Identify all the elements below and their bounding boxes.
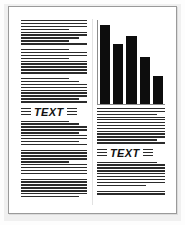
text-rule bbox=[21, 69, 87, 70]
text-rule bbox=[21, 167, 87, 168]
right-headline-row: TEXT bbox=[97, 146, 165, 159]
text-rule bbox=[21, 52, 87, 53]
text-rule bbox=[21, 141, 79, 142]
text-rule bbox=[97, 170, 165, 171]
text-rule bbox=[97, 162, 157, 163]
text-rule bbox=[21, 37, 79, 38]
left-headline-rule-right bbox=[67, 108, 77, 115]
text-rule bbox=[97, 114, 157, 115]
text-rule bbox=[21, 190, 87, 191]
text-rule bbox=[97, 117, 165, 118]
text-rule bbox=[21, 72, 87, 73]
text-rule bbox=[21, 173, 87, 174]
text-rule bbox=[21, 144, 87, 145]
text-rule bbox=[97, 176, 165, 177]
text-rule bbox=[21, 170, 87, 171]
left-headline-rule-left bbox=[21, 108, 31, 115]
text-rule bbox=[21, 29, 69, 30]
right-lines-below bbox=[97, 162, 165, 195]
text-rule bbox=[21, 55, 87, 56]
text-rule bbox=[21, 184, 87, 185]
text-rule bbox=[21, 26, 87, 27]
chart-bars bbox=[100, 21, 163, 104]
text-rule bbox=[21, 84, 87, 85]
left-headline-label: TEXT bbox=[34, 106, 64, 118]
text-rule bbox=[21, 158, 87, 159]
text-rule bbox=[21, 87, 87, 88]
text-rule bbox=[21, 187, 87, 188]
text-rule bbox=[21, 181, 87, 182]
text-rule bbox=[97, 185, 146, 186]
text-rule bbox=[21, 95, 87, 96]
text-rule bbox=[21, 138, 87, 139]
text-rule bbox=[21, 81, 79, 82]
right-headline-rule-right bbox=[143, 149, 153, 156]
text-rule bbox=[21, 152, 87, 153]
text-rule bbox=[97, 119, 165, 120]
text-rule bbox=[97, 164, 165, 165]
text-rule bbox=[21, 40, 69, 41]
text-rule bbox=[97, 108, 165, 109]
page-content: TEXT TEXT bbox=[9, 7, 176, 213]
text-rule bbox=[97, 179, 165, 180]
text-rule bbox=[21, 121, 69, 122]
left-lines-below bbox=[21, 121, 87, 198]
text-rule bbox=[97, 133, 165, 134]
text-rule bbox=[97, 193, 165, 194]
text-rule bbox=[21, 161, 69, 162]
text-rule bbox=[97, 167, 165, 168]
left-lines-above bbox=[21, 20, 87, 103]
chart-x-axis bbox=[97, 104, 165, 105]
document-thumbnail: TEXT TEXT bbox=[0, 0, 185, 225]
text-rule bbox=[97, 191, 165, 192]
text-rule bbox=[97, 111, 165, 112]
right-text-column: TEXT bbox=[97, 119, 165, 196]
left-text-column: TEXT bbox=[21, 20, 87, 199]
text-rule bbox=[21, 196, 79, 197]
text-rule bbox=[21, 63, 87, 64]
text-rule bbox=[21, 132, 79, 133]
text-rule bbox=[21, 49, 69, 50]
text-rule bbox=[21, 164, 87, 165]
chart-bar bbox=[153, 76, 163, 104]
right-lines-above bbox=[97, 119, 165, 144]
text-rule bbox=[21, 61, 87, 62]
right-headline-rule-left bbox=[97, 149, 107, 156]
bar-chart bbox=[97, 20, 165, 105]
text-rule bbox=[21, 123, 79, 124]
text-rule bbox=[21, 126, 87, 127]
right-strip-lines bbox=[97, 108, 165, 120]
text-rule bbox=[97, 173, 165, 174]
text-rule bbox=[21, 129, 87, 130]
text-rule bbox=[97, 182, 165, 183]
chart-bar bbox=[113, 44, 123, 104]
text-rule bbox=[21, 135, 87, 136]
right-strip-line-group bbox=[97, 108, 165, 118]
text-rule bbox=[21, 193, 87, 194]
column-divider bbox=[92, 19, 93, 205]
text-rule bbox=[21, 150, 87, 151]
text-rule bbox=[21, 23, 87, 24]
text-rule bbox=[21, 32, 87, 33]
text-rule bbox=[97, 122, 165, 123]
text-rule bbox=[21, 98, 79, 99]
text-rule bbox=[97, 128, 165, 129]
text-rule bbox=[21, 155, 87, 156]
chart-bar bbox=[100, 25, 110, 104]
text-rule bbox=[21, 92, 87, 93]
text-rule bbox=[21, 90, 87, 91]
text-rule bbox=[97, 139, 157, 140]
text-rule bbox=[97, 131, 165, 132]
chart-bar bbox=[126, 36, 136, 104]
text-rule bbox=[21, 34, 87, 35]
text-rule bbox=[97, 136, 165, 137]
text-rule bbox=[21, 20, 87, 21]
text-rule bbox=[21, 58, 69, 59]
text-rule bbox=[21, 101, 87, 102]
text-rule bbox=[97, 142, 165, 143]
text-rule bbox=[21, 43, 87, 44]
chart-y-axis bbox=[97, 20, 98, 105]
text-rule bbox=[21, 179, 87, 180]
text-rule bbox=[97, 125, 165, 126]
text-rule bbox=[21, 78, 69, 79]
